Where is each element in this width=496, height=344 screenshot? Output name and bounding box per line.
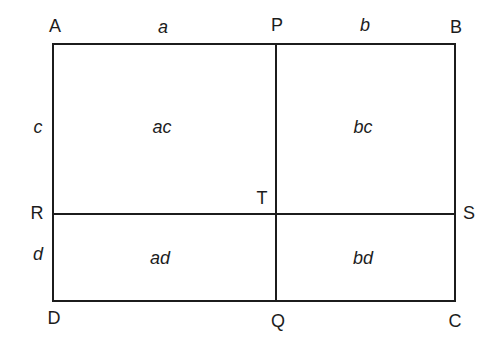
segment-label-b: b bbox=[360, 16, 370, 34]
vertex-label-b: B bbox=[450, 18, 462, 36]
horizontal-line-rs bbox=[52, 213, 456, 215]
rectangle-partition-diagram: A P B R T S D Q C a b c d ac bc ad bd bbox=[0, 0, 496, 344]
vertex-label-c: C bbox=[449, 312, 462, 330]
vertex-label-q: Q bbox=[271, 312, 285, 330]
vertex-label-r: R bbox=[31, 204, 44, 222]
region-label-ac: ac bbox=[152, 118, 171, 136]
vertex-label-t: T bbox=[257, 189, 268, 207]
vertex-label-a: A bbox=[49, 17, 61, 35]
region-label-bc: bc bbox=[353, 118, 372, 136]
outer-rectangle-abcd bbox=[52, 43, 456, 302]
segment-label-a: a bbox=[158, 18, 168, 36]
segment-label-c: c bbox=[34, 118, 43, 136]
vertex-label-d: D bbox=[48, 309, 61, 327]
vertical-line-pq bbox=[275, 43, 277, 302]
vertex-label-p: P bbox=[271, 16, 283, 34]
vertex-label-s: S bbox=[463, 204, 475, 222]
region-label-ad: ad bbox=[150, 249, 170, 267]
segment-label-d: d bbox=[33, 245, 43, 263]
region-label-bd: bd bbox=[353, 249, 373, 267]
